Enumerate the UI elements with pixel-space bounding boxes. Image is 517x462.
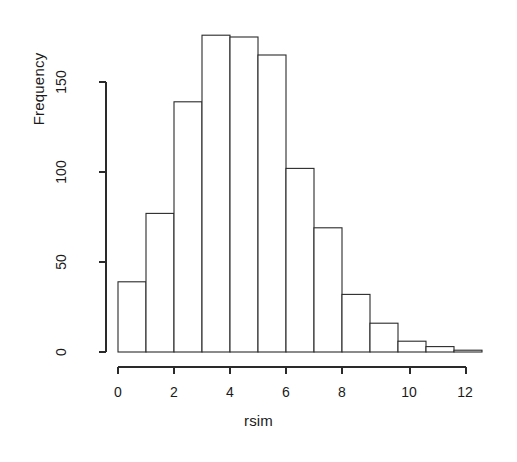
histogram-bar — [314, 228, 342, 352]
histogram-bar — [426, 347, 454, 352]
histogram-plot: Frequency rsim 0 50 100 150 0 2 4 6 8 10… — [0, 0, 517, 462]
histogram-bar — [286, 168, 314, 352]
histogram-bar — [258, 55, 286, 352]
x-axis — [118, 367, 466, 374]
histogram-bar — [342, 294, 370, 352]
histogram-bar — [398, 341, 426, 352]
histogram-bars — [118, 35, 482, 352]
histogram-bar — [230, 37, 258, 352]
histogram-bar — [202, 35, 230, 352]
histogram-bar — [454, 350, 482, 352]
histogram-bar — [118, 282, 146, 352]
histogram-bar — [370, 323, 398, 352]
histogram-bar — [174, 102, 202, 352]
y-axis — [99, 82, 106, 352]
histogram-bar — [146, 213, 174, 352]
